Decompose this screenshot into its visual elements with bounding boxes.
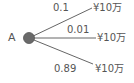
branch-outcome-2: ¥10万 [97,33,126,43]
branch-line-3 [29,38,93,64]
branch-outcome-3: ¥10万 [95,64,124,74]
branch-probability-1: 0.1 [53,3,69,13]
chance-node-icon [24,33,35,44]
branch-outcome-1: ¥10万 [93,3,122,13]
branch-probability-2: 0.01 [67,25,89,35]
branch-probability-3: 0.89 [54,64,76,74]
root-label: A [8,33,16,43]
